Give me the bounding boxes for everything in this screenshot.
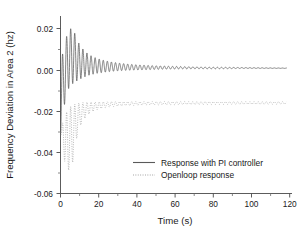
x-tick-label-1: 20 (94, 199, 104, 209)
y-tick-label-4: -0.06 (34, 189, 53, 199)
y-tick-label-2: -0.02 (34, 107, 53, 117)
series-response-with-pi-controller (61, 29, 287, 134)
x-axis-major-ticks (61, 194, 290, 198)
x-tick-label-5: 100 (245, 199, 259, 209)
x-tick-label-6: 120 (283, 199, 297, 209)
chart-plot-area: 0.02 0.00 -0.02 -0.04 -0.06 0 20 40 60 8… (0, 0, 303, 237)
x-tick-label-3: 60 (170, 199, 180, 209)
legend-label-1: Openloop response (161, 170, 234, 180)
x-axis-title: Time (s) (158, 215, 193, 226)
chart-legend: Response with PI controller Openloop res… (133, 158, 263, 181)
x-tick-label-2: 40 (132, 199, 142, 209)
y-tick-label-0: 0.02 (37, 24, 54, 34)
y-tick-label-1: 0.00 (37, 66, 54, 76)
y-axis-title: Frequency Deviation in Area 2 (hz) (4, 31, 15, 179)
legend-label-0: Response with PI controller (161, 158, 263, 168)
chart-figure: 0.02 0.00 -0.02 -0.04 -0.06 0 20 40 60 8… (0, 0, 303, 237)
x-tick-label-0: 0 (58, 199, 63, 209)
y-axis-major-ticks (57, 29, 61, 194)
x-tick-label-4: 80 (209, 199, 219, 209)
y-tick-label-3: -0.04 (34, 148, 53, 158)
